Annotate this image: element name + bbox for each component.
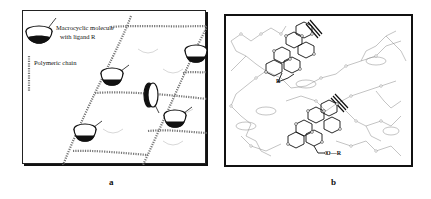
legend-chain-label: Polymeric chain <box>34 59 76 67</box>
panel-a-schematic: Macrocyclic molecule with ligand R Polym… <box>22 10 206 164</box>
legend-macrocycle-label: Macrocyclic molecule <box>56 24 114 32</box>
macrocycle-bowls <box>74 42 207 141</box>
caption-b: b <box>331 177 336 187</box>
polymer-backbone <box>231 26 406 156</box>
panel-b-molecular-structure: R O—R <box>224 14 413 167</box>
ligand-label-lower: O—R <box>326 149 341 157</box>
molecular-structure-drawing <box>226 16 411 165</box>
ligand-label-upper: R <box>276 77 280 85</box>
legend-macrocycle-label-2: with ligand R <box>60 33 95 41</box>
schematic-drawing <box>23 11 207 165</box>
caption-a: a <box>109 177 114 187</box>
legend-macrocycle-icon <box>26 18 56 44</box>
